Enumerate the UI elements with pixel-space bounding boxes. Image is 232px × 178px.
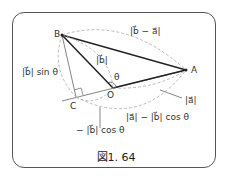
label-b-sin: |b⃗| sin θ bbox=[22, 68, 58, 77]
label-a-minus-bcos: |a⃗| − |b⃗| cos θ bbox=[126, 113, 189, 122]
point-a-label: A bbox=[191, 66, 197, 75]
label-b-minus-a: |b⃗ − a⃗| bbox=[130, 27, 161, 36]
label-a-abs: |a⃗| bbox=[185, 96, 197, 105]
point-c-label: C bbox=[70, 102, 76, 111]
label-neg-bcos: − |b⃗| cos θ bbox=[76, 126, 125, 135]
point-b-label: B bbox=[54, 30, 60, 39]
figure-caption: 図1. 64 bbox=[0, 148, 232, 164]
point-o-label: O bbox=[107, 91, 114, 100]
label-b-abs: |b⃗| bbox=[96, 56, 108, 65]
angle-theta-label: θ bbox=[114, 73, 120, 82]
